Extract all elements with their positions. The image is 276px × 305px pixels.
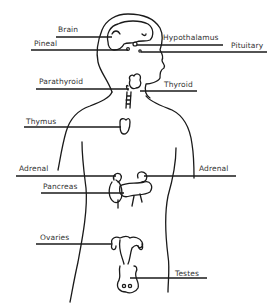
label-pineal: Pineal (34, 40, 57, 48)
right-shoulder (146, 96, 194, 178)
pituitary-dot (139, 50, 141, 52)
label-thyroid: Thyroid (164, 81, 193, 89)
label-testes: Testes (175, 270, 199, 278)
ovaries-uterus (112, 237, 143, 265)
thymus-gland (120, 119, 130, 134)
label-adrenal-left: Adrenal (19, 165, 48, 173)
label-parathyroid: Parathyroid (39, 78, 83, 86)
pancreas-gland (120, 182, 152, 197)
label-pancreas: Pancreas (43, 183, 78, 191)
head-outline (97, 14, 164, 98)
thyroid-gland (129, 74, 140, 89)
hypothalamus-dot (133, 42, 137, 46)
label-pituitary: Pituitary (231, 42, 263, 50)
testes-organ (117, 266, 138, 293)
endocrine-diagram: Brain Pineal Hypothalamus Pituitary Para… (0, 0, 276, 305)
left-shoulder (58, 92, 112, 170)
label-adrenal-right: Adrenal (199, 165, 228, 173)
label-hypothalamus: Hypothalamus (163, 34, 219, 42)
label-brain: Brain (58, 26, 78, 34)
right-adrenal-gland (138, 172, 147, 182)
label-thymus: Thymus (26, 118, 56, 126)
torso-left (70, 142, 86, 302)
label-ovaries: Ovaries (40, 234, 69, 242)
